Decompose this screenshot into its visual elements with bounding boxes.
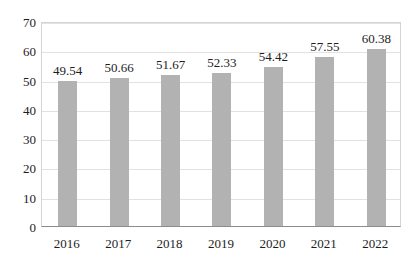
y-tick-label: 70	[0, 16, 36, 29]
bar-slot: 50.66	[93, 23, 144, 226]
x-tick-label: 2022	[343, 237, 407, 250]
bar[interactable]	[58, 81, 77, 226]
bar[interactable]	[315, 57, 334, 226]
y-tick-label: 60	[0, 45, 36, 58]
bar[interactable]	[212, 73, 231, 226]
bar[interactable]	[367, 49, 386, 226]
bar-slot: 51.67	[145, 23, 196, 226]
y-tick-label: 30	[0, 133, 36, 146]
bar-slot: 49.54	[42, 23, 93, 226]
bar-slot: 57.55	[299, 23, 350, 226]
bar[interactable]	[161, 75, 180, 226]
y-tick-label: 10	[0, 191, 36, 204]
bar-slot: 54.42	[248, 23, 299, 226]
bar-chart: 49.5450.6651.6752.3354.4257.5560.38 0102…	[0, 0, 418, 264]
bar-slot: 60.38	[351, 23, 402, 226]
y-tick-label: 50	[0, 74, 36, 87]
y-tick-label: 20	[0, 162, 36, 175]
y-tick-label: 0	[0, 221, 36, 234]
plot-area: 49.5450.6651.6752.3354.4257.5560.38	[41, 22, 401, 227]
y-tick-label: 40	[0, 103, 36, 116]
bar-value-label: 60.38	[344, 32, 408, 45]
bar[interactable]	[264, 67, 283, 226]
bar[interactable]	[110, 78, 129, 226]
bar-slot: 52.33	[196, 23, 247, 226]
